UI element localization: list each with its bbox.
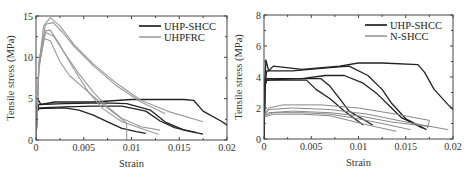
stress-strain-figure: 00.0050.010.0150.02051015StrainTensile s… bbox=[0, 0, 472, 176]
x-tick-label: 0.015 bbox=[395, 141, 418, 152]
series-line-uhp-shcc bbox=[36, 106, 196, 140]
y-tick-label: 4 bbox=[256, 72, 261, 83]
x-axis-label: Strain bbox=[119, 158, 145, 169]
x-tick-label: 0 bbox=[262, 141, 267, 152]
y-tick-label: 6 bbox=[256, 41, 261, 52]
y-tick-label: 0 bbox=[256, 134, 261, 145]
series-group bbox=[264, 60, 453, 139]
x-tick-label: 0.02 bbox=[218, 142, 236, 153]
series-line-uhpfrc bbox=[36, 23, 165, 140]
y-tick-label: 0 bbox=[28, 135, 33, 146]
y-axis-label: Tensile stress (MPa) bbox=[5, 35, 17, 121]
y-tick-label: 8 bbox=[256, 10, 261, 21]
x-axis-label: Strain bbox=[346, 157, 372, 168]
x-tick-label: 0 bbox=[34, 142, 39, 153]
y-tick-label: 15 bbox=[23, 11, 33, 22]
right-chart-uhp-shcc-vs-n-shcc: 00.0050.010.0150.0202468StrainTensile st… bbox=[233, 10, 462, 169]
x-tick-label: 0.005 bbox=[300, 141, 323, 152]
x-tick-label: 0.01 bbox=[123, 142, 141, 153]
y-tick-label: 5 bbox=[28, 93, 33, 104]
series-line-uhpfrc bbox=[36, 30, 158, 140]
legend-label: UHPFRC bbox=[164, 32, 205, 43]
series-line-uhpfrc bbox=[36, 33, 160, 141]
x-tick-label: 0.015 bbox=[168, 142, 191, 153]
y-tick-label: 2 bbox=[256, 103, 261, 114]
legend-label: UHP-SHCC bbox=[164, 21, 216, 32]
y-axis-label: Tensile stress (MPa) bbox=[233, 34, 245, 120]
x-tick-label: 0.02 bbox=[444, 141, 462, 152]
x-tick-label: 0.005 bbox=[73, 142, 96, 153]
y-tick-label: 10 bbox=[23, 52, 33, 63]
x-tick-label: 0.01 bbox=[350, 141, 368, 152]
legend-label: N-SHCC bbox=[390, 31, 429, 42]
left-chart-uhp-shcc-vs-uhpfrc: 00.0050.010.0150.02051015StrainTensile s… bbox=[5, 11, 236, 170]
series-line-uhp-shcc bbox=[264, 60, 453, 139]
legend-label: UHP-SHCC bbox=[390, 20, 442, 31]
